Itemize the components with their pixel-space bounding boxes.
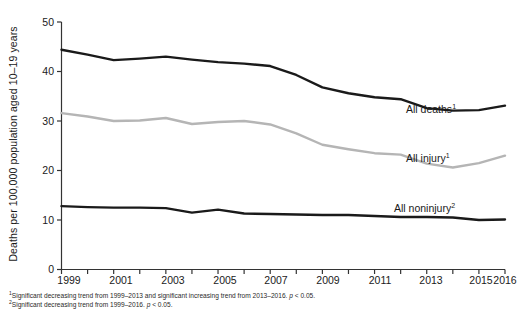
x-tick-label-2013: 2013 xyxy=(411,274,451,286)
series-label-all-deaths: All deaths1 xyxy=(406,103,456,115)
figure-container: Deaths per 100,000 population aged 10–19… xyxy=(0,0,524,323)
x-tick-label-2016: 2016 xyxy=(485,274,524,286)
series-label-all-injury-superscript: 1 xyxy=(446,152,450,159)
footnote-1-text-after: < 0.05. xyxy=(293,292,315,299)
x-tick-label-1999: 1999 xyxy=(49,274,89,286)
series-label-all-noninjury: All noninjury2 xyxy=(394,202,455,214)
y-tick-label-20: 20 xyxy=(28,164,54,176)
footnote-2: 2Significant decreasing trend from 1999–… xyxy=(9,300,514,309)
x-tick-label-2003: 2003 xyxy=(153,274,193,286)
footnote-2-text-before: Significant decreasing trend from 1999–2… xyxy=(12,301,147,308)
x-tick-label-2007: 2007 xyxy=(256,274,296,286)
series-label-all-noninjury-superscript: 2 xyxy=(451,202,455,209)
y-axis-ticks xyxy=(57,22,62,270)
footnote-2-text-after: < 0.05. xyxy=(150,301,172,308)
y-axis-title: Deaths per 100,000 population aged 10–19… xyxy=(7,14,19,274)
x-tick-label-2005: 2005 xyxy=(205,274,245,286)
x-tick-label-2001: 2001 xyxy=(101,274,141,286)
series-label-all-injury-text: All injury xyxy=(406,152,446,164)
footnotes-block: 1Significant decreasing trend from 1999–… xyxy=(9,291,514,310)
footnote-1: 1Significant decreasing trend from 1999–… xyxy=(9,291,514,300)
data-series-group xyxy=(62,50,506,220)
x-tick-label-2011: 2011 xyxy=(360,274,400,286)
y-tick-label-10: 10 xyxy=(28,214,54,226)
series-label-all-noninjury-text: All noninjury xyxy=(394,202,451,214)
series-line-all-deaths xyxy=(62,50,506,111)
x-tick-label-2009: 2009 xyxy=(308,274,348,286)
series-label-all-deaths-text: All deaths xyxy=(406,103,452,115)
chart-plot-area: Deaths per 100,000 population aged 10–19… xyxy=(0,0,524,290)
series-label-all-deaths-superscript: 1 xyxy=(452,103,456,110)
series-label-all-injury: All injury1 xyxy=(406,152,450,164)
y-tick-label-40: 40 xyxy=(28,65,54,77)
line-chart-svg xyxy=(0,0,524,290)
y-tick-label-50: 50 xyxy=(28,16,54,28)
y-tick-label-30: 30 xyxy=(28,115,54,127)
footnote-1-text-before: Significant decreasing trend from 1999–2… xyxy=(12,292,289,299)
